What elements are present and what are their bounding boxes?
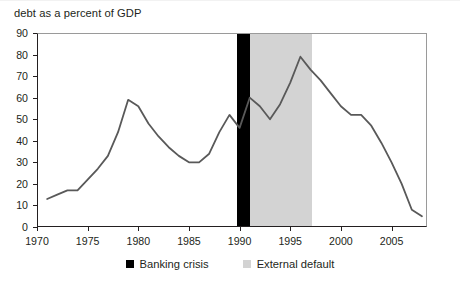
plot-area <box>37 33 427 227</box>
y-axis-label: 10 <box>16 200 28 211</box>
top-rule-divider <box>0 0 460 1</box>
legend-label: Banking crisis <box>140 258 209 270</box>
y-axis-label: 60 <box>16 93 28 104</box>
x-axis-label: 1970 <box>12 236 62 247</box>
legend-item: Banking crisis <box>126 258 209 270</box>
data-series-line <box>47 57 422 217</box>
banking-crisis-swatch <box>126 260 134 268</box>
y-axis-label: 90 <box>16 28 28 39</box>
y-axis-label: 80 <box>16 50 28 61</box>
x-axis-tick <box>392 227 393 231</box>
series-line-chart <box>37 33 427 227</box>
x-axis-tick <box>138 227 139 231</box>
legend-item: External default <box>243 258 335 270</box>
y-axis-label: 40 <box>16 136 28 147</box>
x-axis-label: 1995 <box>265 236 315 247</box>
chart-caption: debt as a percent of GDP <box>14 7 141 20</box>
x-axis-tick <box>37 227 38 231</box>
y-axis-label: 70 <box>16 71 28 82</box>
x-axis-label: 2005 <box>367 236 417 247</box>
y-axis-label: 30 <box>16 157 28 168</box>
x-axis-label: 1990 <box>215 236 265 247</box>
external-default-swatch <box>243 260 251 268</box>
x-axis-tick <box>189 227 190 231</box>
x-axis-tick <box>88 227 89 231</box>
x-axis-label: 1980 <box>113 236 163 247</box>
x-axis-label: 1975 <box>63 236 113 247</box>
legend-label: External default <box>257 258 335 270</box>
x-axis-label: 1985 <box>164 236 214 247</box>
chart-figure: debt as a percent of GDP 010203040506070… <box>0 0 460 292</box>
chart-legend: Banking crisisExternal default <box>0 258 460 270</box>
x-axis-tick <box>290 227 291 231</box>
x-axis-tick <box>341 227 342 231</box>
y-axis-label: 20 <box>16 179 28 190</box>
x-axis-label: 2000 <box>316 236 366 247</box>
y-axis-label: 50 <box>16 114 28 125</box>
x-axis-tick <box>240 227 241 231</box>
y-axis-label: 0 <box>22 222 28 233</box>
